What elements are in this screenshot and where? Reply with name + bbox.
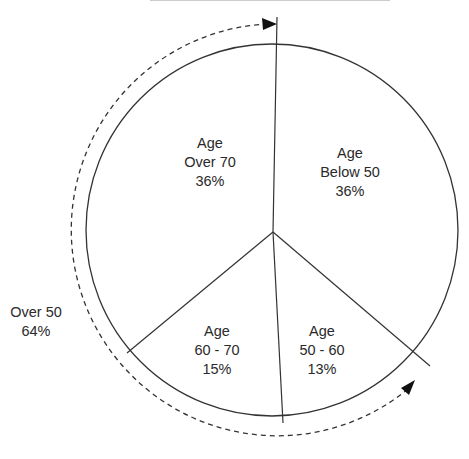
slice-percent: 15%: [167, 360, 267, 379]
slice-label-line: Age: [272, 322, 372, 341]
slice-label-below50: Age Below 50 36%: [300, 144, 400, 201]
slice-label-50to60: Age 50 - 60 13%: [272, 322, 372, 379]
slice-label-over70: Age Over 70 36%: [160, 134, 260, 191]
slice-label-line: Over 70: [160, 153, 260, 172]
slice-label-line: 60 - 70: [167, 341, 267, 360]
slice-label-line: Age: [167, 322, 267, 341]
annotation-over50: Over 50 64%: [0, 303, 72, 341]
annotation-label: Over 50: [0, 303, 72, 322]
slice-label-line: Age: [300, 144, 400, 163]
slice-label-60to70: Age 60 - 70 15%: [167, 322, 267, 379]
slice-label-line: Below 50: [300, 163, 400, 182]
slice-label-line: Age: [160, 134, 260, 153]
annotation-percent: 64%: [0, 322, 72, 341]
slice-percent: 13%: [272, 360, 372, 379]
slice-percent: 36%: [300, 182, 400, 201]
slice-percent: 36%: [160, 172, 260, 191]
slice-label-line: 50 - 60: [272, 341, 372, 360]
pie-chart: [0, 0, 469, 459]
arrowhead-top-icon: [262, 18, 277, 30]
arrowhead-bottom-icon: [401, 380, 415, 395]
